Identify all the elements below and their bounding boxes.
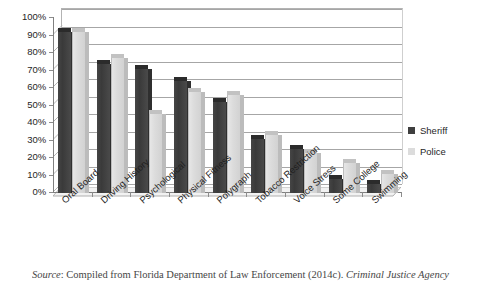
y-tick-label: 0% (0, 187, 46, 197)
source-caption: Source: Compiled from Florida Department… (32, 268, 476, 281)
figure: 100%90%80%70%60%50%40%30%20%10%0% Oral B… (0, 0, 480, 288)
bar-top-face (135, 65, 148, 69)
bar-top-face (381, 170, 394, 174)
bar-sheriff[interactable] (213, 102, 226, 193)
bar-group (251, 17, 278, 193)
bar-top-face (343, 159, 356, 163)
y-tick-label: 40% (0, 117, 46, 127)
bar-top-face (97, 60, 110, 64)
bar-series-container (53, 17, 401, 193)
bar-group (58, 17, 85, 193)
legend-swatch-sheriff-icon (408, 127, 415, 134)
y-tick-mark (49, 17, 53, 18)
bar-top-face (251, 135, 264, 139)
y-tick-mark (49, 192, 53, 193)
bar-top-face (367, 180, 380, 184)
legend-label-sheriff: Sheriff (420, 125, 447, 136)
bar-police[interactable] (111, 58, 124, 193)
y-tick-label: 50% (0, 100, 46, 110)
bar-face (251, 139, 264, 193)
caption-text: : Compiled from Florida Department of La… (61, 269, 344, 280)
bar-top-face (58, 28, 71, 32)
bar-face (72, 32, 85, 193)
y-tick-label: 10% (0, 170, 46, 180)
legend-item-police[interactable]: Police (408, 141, 478, 162)
bar-chart: 100%90%80%70%60%50%40%30%20%10%0% Oral B… (0, 0, 480, 258)
y-tick-label: 20% (0, 152, 46, 162)
y-tick-mark (49, 105, 53, 106)
bar-top-face (72, 28, 85, 32)
legend-swatch-police-icon (408, 148, 415, 155)
bar-top-face (265, 131, 278, 135)
bar-face (213, 102, 226, 193)
legend-label-police: Police (420, 146, 446, 157)
legend-item-sheriff[interactable]: Sheriff (408, 120, 478, 141)
plot-area (53, 17, 401, 192)
y-tick-mark (49, 157, 53, 158)
bar-police[interactable] (72, 32, 85, 193)
bar-top-face (290, 145, 303, 149)
bar-group (97, 17, 124, 193)
bar-face (111, 58, 124, 193)
y-tick-mark (49, 175, 53, 176)
caption-source-word: Source (32, 269, 61, 280)
y-axis-tick-labels: 100%90%80%70%60%50%40%30%20%10%0% (0, 0, 46, 258)
y-tick-mark (49, 35, 53, 36)
chart-legend: Sheriff Police (408, 120, 478, 162)
y-tick-label: 60% (0, 82, 46, 92)
y-tick-mark (49, 140, 53, 141)
y-tick-label: 100% (0, 12, 46, 22)
y-tick-mark (49, 87, 53, 88)
bar-top-face (227, 91, 240, 95)
y-tick-label: 30% (0, 135, 46, 145)
bar-top-face (188, 88, 201, 92)
bar-top-face (174, 77, 187, 81)
y-tick-label: 70% (0, 65, 46, 75)
caption-italic-tail: Criminal Justice Agency (343, 269, 449, 280)
x-axis-category-labels: Oral BoardDriving HistoryPsychologicalPh… (53, 196, 413, 256)
bar-top-face (149, 110, 162, 114)
bar-top-face (213, 98, 226, 102)
y-tick-mark (49, 70, 53, 71)
bar-sheriff[interactable] (58, 32, 71, 193)
y-tick-label: 90% (0, 30, 46, 40)
gridline (62, 9, 402, 10)
y-tick-mark (49, 122, 53, 123)
bar-side-face (85, 32, 89, 193)
bar-top-face (111, 54, 124, 58)
bar-sheriff[interactable] (251, 139, 264, 193)
y-tick-mark (49, 52, 53, 53)
bar-face (58, 32, 71, 193)
y-tick-label: 80% (0, 47, 46, 57)
